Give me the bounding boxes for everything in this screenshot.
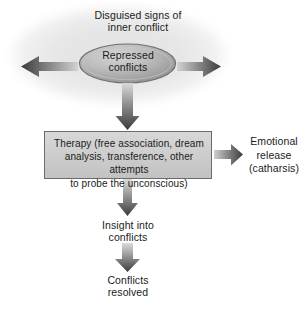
emotional-release-label: Emotional release (catharsis) <box>243 135 305 176</box>
insight-into-conflicts-label: Insight into conflicts <box>88 219 168 244</box>
arrow-insight-to-resolved-icon <box>115 243 140 272</box>
disguised-signs-caption: Disguised signs of inner conflict <box>63 9 213 34</box>
diagram-canvas: Disguised signs of inner conflict Repres… <box>0 0 307 310</box>
repressed-conflicts-label: Repressed conflicts <box>80 49 176 74</box>
arrow-therapy-to-catharsis-icon <box>214 144 243 166</box>
conflicts-resolved-label: Conflicts resolved <box>88 274 168 299</box>
therapy-box-label: Therapy (free association, dream analysi… <box>46 137 212 190</box>
